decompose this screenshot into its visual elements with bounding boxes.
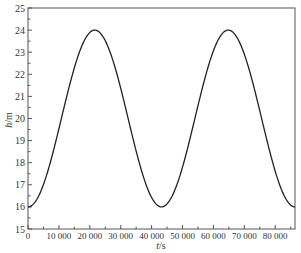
y-tick-label: 20 [15, 113, 25, 124]
x-tick-label: 0 [26, 231, 31, 241]
height-curve [28, 30, 295, 207]
y-tick-label: 18 [15, 157, 25, 168]
y-axis-ticks: 1516171819202122232425 [15, 3, 32, 235]
y-tick-label: 23 [15, 47, 25, 58]
y-tick-label: 16 [15, 201, 25, 212]
y-axis-label: h/m [3, 112, 14, 128]
x-tick-label: 30 000 [108, 231, 133, 241]
tide-height-chart: 1516171819202122232425 010 00020 00030 0… [0, 0, 301, 253]
y-tick-label: 24 [15, 25, 25, 36]
x-tick-label: 70 000 [232, 231, 257, 241]
x-tick-label: 60 000 [201, 231, 226, 241]
x-tick-label: 80 000 [263, 231, 288, 241]
y-tick-label: 19 [15, 135, 25, 146]
y-tick-label: 17 [15, 179, 25, 190]
x-axis-ticks: 010 00020 00030 00040 00050 00060 00070 … [26, 225, 291, 241]
y-tick-label: 21 [15, 91, 25, 102]
y-tick-label: 22 [15, 69, 25, 80]
x-axis-label: t/s [156, 240, 166, 251]
y-tick-label: 25 [15, 3, 25, 14]
plot-frame [28, 8, 295, 229]
x-tick-label: 10 000 [47, 231, 72, 241]
x-tick-label: 50 000 [170, 231, 195, 241]
x-tick-label: 20 000 [77, 231, 102, 241]
y-tick-label: 15 [15, 224, 25, 235]
